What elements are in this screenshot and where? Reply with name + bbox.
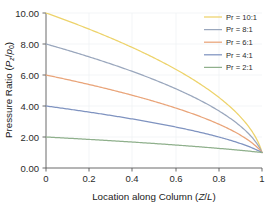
x-axis-title: Location along Column (Z/L) xyxy=(92,191,216,202)
y-axis-title-prefix: Pressure Ratio ( xyxy=(3,67,14,139)
y-axis-title: Pressure Ratio (Pz/p0) xyxy=(3,42,15,138)
xtick-label-1: 1 xyxy=(259,173,264,184)
x-axis-title-suffix: ) xyxy=(213,191,216,202)
ytick-label-2: 2.00 xyxy=(21,132,40,143)
legend-label-0: Pr = 10:1 xyxy=(226,13,257,22)
ytick-label-4: 4.00 xyxy=(21,101,40,112)
legend-label-3: Pr = 4:1 xyxy=(226,51,253,60)
ytick-label-8: 8.00 xyxy=(21,39,40,50)
legend-label-1: Pr = 8:1 xyxy=(226,25,253,34)
ytick-label-6: 6.00 xyxy=(21,70,40,81)
xtick-label-0p2: 0.2 xyxy=(82,173,95,184)
y-axis-title-suffix: ) xyxy=(3,42,14,45)
ytick-label-10: 10.00 xyxy=(15,8,39,19)
xtick-label-0p4: 0.4 xyxy=(125,173,138,184)
ytick-label-0: 0.00 xyxy=(21,163,40,174)
legend-label-2: Pr = 6:1 xyxy=(226,38,253,47)
x-axis-title-prefix: Location along Column ( xyxy=(92,191,199,202)
xtick-label-0p6: 0.6 xyxy=(169,173,182,184)
xtick-label-0p8: 0.8 xyxy=(212,173,225,184)
legend-label-4: Pr = 2:1 xyxy=(226,63,253,72)
xtick-label-0: 0 xyxy=(43,173,48,184)
pressure-ratio-line-chart: 10.00 8.00 6.00 4.00 2.00 0.00 0 0.2 0.4… xyxy=(0,0,275,213)
chart-figure: 10.00 8.00 6.00 4.00 2.00 0.00 0 0.2 0.4… xyxy=(0,0,275,213)
